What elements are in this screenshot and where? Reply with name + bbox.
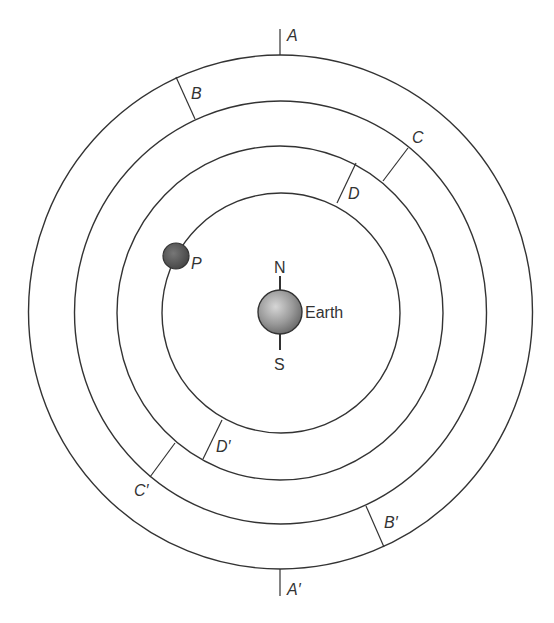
label-south: S xyxy=(274,356,285,373)
label-b: B xyxy=(191,85,202,102)
earth-icon xyxy=(258,290,302,334)
label-p: P xyxy=(191,255,202,272)
label-a: A xyxy=(286,27,298,44)
marker-line-c-prime xyxy=(150,443,175,477)
label-c-prime: C′ xyxy=(134,482,150,499)
label-earth: Earth xyxy=(305,304,343,321)
label-d-prime: D′ xyxy=(216,438,232,455)
label-d: D xyxy=(348,185,360,202)
label-c: C xyxy=(412,129,424,146)
orbit-diagram: A A′ B B′ C C′ D D′ N S Earth P xyxy=(0,0,554,623)
moon-p-icon xyxy=(163,243,189,269)
label-b-prime: B′ xyxy=(384,514,399,531)
marker-line-c xyxy=(383,148,408,181)
marker-line-b-prime xyxy=(366,506,384,547)
label-north: N xyxy=(274,259,286,276)
label-a-prime: A′ xyxy=(286,581,302,598)
